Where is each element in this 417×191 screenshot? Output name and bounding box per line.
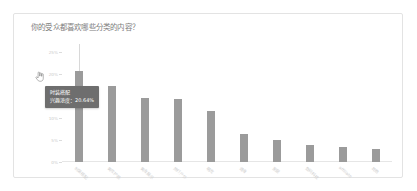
tooltip-metric-value: 20.64% (75, 97, 94, 103)
x-axis-label: affiliate (337, 165, 352, 179)
bar[interactable] (141, 98, 149, 162)
bar-column[interactable]: 其他 (372, 52, 380, 162)
bar-column[interactable]: 家居 (273, 52, 281, 162)
bar[interactable] (372, 149, 380, 162)
bar[interactable] (108, 86, 116, 162)
x-axis-label: 美食展示 (139, 165, 155, 180)
bar[interactable] (174, 99, 182, 162)
x-axis-label: 旅行户外 (172, 165, 188, 180)
bar[interactable] (207, 111, 215, 162)
tooltip-category: 时装搭配 (50, 89, 94, 97)
y-axis-tick: 10% (49, 116, 58, 121)
x-axis-label: 萌宠 (205, 165, 215, 175)
bar-series: 时装搭配美妆护肤美食展示旅行户外萌宠健身家居数码科技affiliate其他 (62, 52, 392, 162)
x-axis-label: 家居 (271, 165, 281, 175)
bar-column[interactable]: affiliate (339, 52, 347, 162)
bar-column[interactable]: 旅行户外 (174, 52, 182, 162)
bar-column[interactable]: 萌宠 (207, 52, 215, 162)
x-axis-label: 美妆护肤 (106, 165, 122, 180)
chart-tooltip: 时装搭配 兴趣浓度：20.64% (45, 86, 99, 108)
tooltip-metric-label: 兴趣浓度： (50, 97, 75, 103)
page-title: 你的受众都喜欢哪些分类的内容？ (31, 21, 139, 32)
bar-column[interactable]: 健身 (240, 52, 248, 162)
bar-column[interactable]: 美食展示 (141, 52, 149, 162)
bar[interactable] (339, 147, 347, 162)
hover-indicator-line (79, 44, 80, 71)
bar[interactable] (240, 134, 248, 162)
x-axis-label: 其他 (370, 165, 380, 175)
x-axis-label: 健身 (238, 165, 248, 175)
x-axis-label: 数码科技 (304, 165, 320, 180)
y-axis-tick: 20% (49, 72, 58, 77)
bar[interactable] (75, 71, 83, 162)
chart-card: 你的受众都喜欢哪些分类的内容？ 25%20%15%10%5%0% 时装搭配美妆护… (13, 13, 403, 178)
tooltip-metric: 兴趣浓度：20.64% (50, 97, 94, 105)
bar[interactable] (273, 140, 281, 162)
chart-plot-area: 25%20%15%10%5%0% 时装搭配美妆护肤美食展示旅行户外萌宠健身家居数… (62, 52, 392, 162)
pointing-hand-cursor-icon (35, 71, 44, 82)
bar[interactable] (306, 145, 314, 162)
bar-column[interactable]: 数码科技 (306, 52, 314, 162)
bar-column[interactable]: 美妆护肤 (108, 52, 116, 162)
y-axis-tick: 0% (51, 160, 58, 165)
x-axis-label: 时装搭配 (73, 165, 89, 180)
y-axis-tick: 5% (51, 138, 58, 143)
y-axis-tick: 25% (49, 50, 58, 55)
